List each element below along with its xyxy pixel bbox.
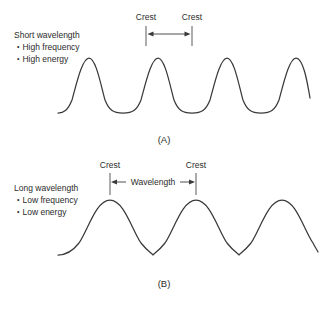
panel-a-wave <box>0 0 328 155</box>
panel-a-label: (A) <box>0 134 328 145</box>
panel-a-wave-path <box>58 58 310 113</box>
panel-b-label: (B) <box>0 278 328 289</box>
panel-b-wave-path <box>58 200 318 255</box>
panel-b: Long wavelength Low frequency Low energy… <box>0 155 328 309</box>
panel-a: Short wavelength High frequency High ene… <box>0 0 328 155</box>
